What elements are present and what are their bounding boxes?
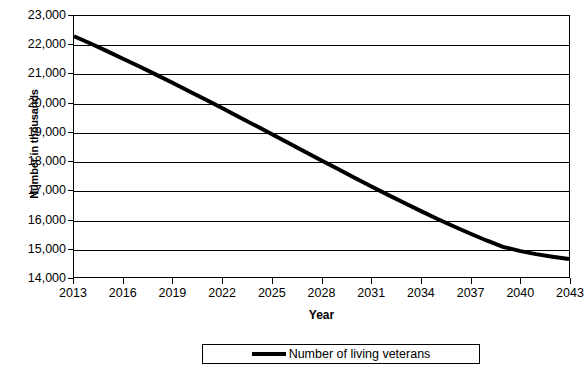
x-axis-tick-mark [520, 278, 521, 284]
x-axis-tick-mark [73, 278, 74, 284]
x-axis-tick-mark [570, 278, 571, 284]
x-axis-tick-mark [471, 278, 472, 284]
plot-area [73, 15, 570, 278]
y-axis-tick-mark [68, 73, 73, 74]
x-axis-tick-mark [421, 278, 422, 284]
y-axis-tick-mark [68, 15, 73, 16]
gridline [74, 221, 569, 222]
y-axis-tick-mark [68, 103, 73, 104]
x-axis-tick-label: 2043 [540, 286, 588, 300]
chart-legend: Number of living veterans [202, 344, 480, 364]
y-axis-tick-label: 19,000 [10, 126, 66, 138]
y-axis-tick-label: 22,000 [10, 38, 66, 50]
gridline [74, 104, 569, 105]
gridline [74, 191, 569, 192]
gridline [74, 133, 569, 134]
series-line-chart [74, 16, 569, 277]
legend-line-swatch [252, 352, 286, 356]
x-axis-tick-mark [272, 278, 273, 284]
y-axis-tick-label: 18,000 [10, 155, 66, 167]
x-axis-tick-mark [172, 278, 173, 284]
y-axis-tick-label: 20,000 [10, 97, 66, 109]
y-axis-tick-label: 23,000 [10, 9, 66, 21]
y-axis-tick-mark [68, 190, 73, 191]
y-axis-tick-label: 21,000 [10, 67, 66, 79]
y-axis-tick-mark [68, 161, 73, 162]
y-axis-tick-mark [68, 132, 73, 133]
series-line [74, 36, 569, 259]
legend-entry-label: Number of living veterans [289, 347, 431, 361]
y-axis-tick-mark [68, 220, 73, 221]
x-axis-title: Year [73, 308, 570, 322]
y-axis-tick-label: 15,000 [10, 243, 66, 255]
y-axis-tick-label: 17,000 [10, 184, 66, 196]
x-axis-tick-mark [123, 278, 124, 284]
gridline [74, 45, 569, 46]
x-axis-tick-mark [322, 278, 323, 284]
y-axis-tick-mark [68, 44, 73, 45]
gridline [74, 250, 569, 251]
gridline [74, 74, 569, 75]
x-axis-tick-mark [222, 278, 223, 284]
y-axis-tick-label: 16,000 [10, 214, 66, 226]
gridline [74, 162, 569, 163]
y-axis-tick-labels: 23,00022,00021,00020,00019,00018,00017,0… [8, 0, 66, 373]
y-axis-tick-mark [68, 249, 73, 250]
x-axis-tick-mark [371, 278, 372, 284]
y-axis-tick-label: 14,000 [10, 272, 66, 284]
